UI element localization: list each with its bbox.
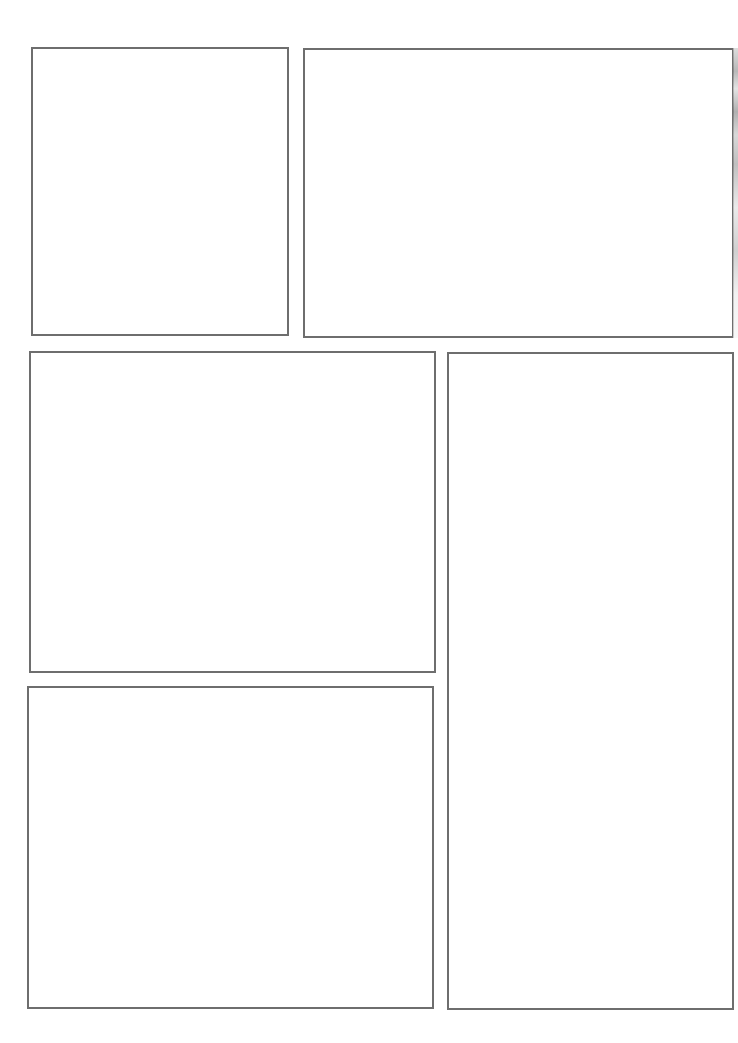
panel-top-left (31, 47, 289, 336)
panel-top-right (303, 48, 734, 338)
scan-edge-shadow (733, 48, 738, 338)
comic-page-layout (0, 0, 738, 1043)
panel-middle-left (29, 351, 436, 673)
panel-tall-right (447, 352, 734, 1010)
panel-bottom-left (27, 686, 434, 1009)
